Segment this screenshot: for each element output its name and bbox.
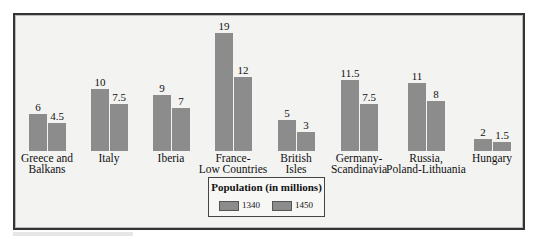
bar-1450 [234,77,252,151]
bar-1450 [172,108,190,151]
caption-fragment [13,232,133,236]
value-label: 11 [402,71,432,82]
bar-1450 [427,101,445,151]
category-label-line: Poland-Lithuania [371,164,481,175]
value-label: 5 [272,108,302,119]
value-label: 12 [228,65,258,76]
bar-1450 [48,123,66,151]
legend-swatch-1450 [272,201,292,211]
bar-1450 [493,142,511,151]
value-label: 9 [147,83,177,94]
category-label-line: Balkans [0,164,102,175]
value-label: 8 [421,89,451,100]
legend-label-1450: 1450 [295,200,313,210]
category-label-line: Hungary [437,153,536,164]
legend-title: Population (in millions) [209,181,324,193]
bar-1340 [215,33,233,151]
bar-1450 [360,104,378,151]
category-label: Hungary [437,153,536,164]
legend: Population (in millions) 1340 1450 [208,177,325,217]
value-label: 1.5 [487,130,517,141]
value-label: 3 [291,120,321,131]
bar-1450 [110,104,128,151]
value-label: 7 [166,96,196,107]
value-label: 7.5 [354,92,384,103]
value-label: 4.5 [42,111,72,122]
value-label: 19 [209,21,239,32]
value-label: 10 [85,77,115,88]
bar-1450 [297,132,315,151]
bar-1340 [341,80,359,151]
value-label: 11.5 [335,68,365,79]
legend-swatch-1340 [219,201,239,211]
legend-label-1340: 1340 [242,200,260,210]
value-label: 7.5 [104,92,134,103]
